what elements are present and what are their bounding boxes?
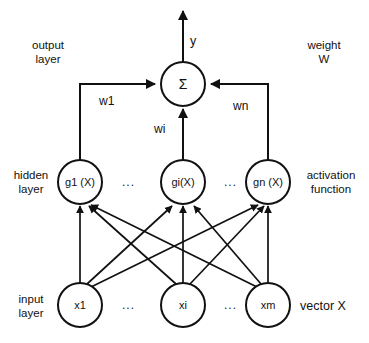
input-node-xm-label: xm — [261, 299, 276, 311]
edge-gn-sigma-wn — [211, 84, 268, 160]
output-signal-y-label: y — [190, 34, 196, 48]
edge-x1-gi — [87, 206, 172, 284]
edge-xi-g1 — [89, 206, 176, 284]
hidden-node-gn-label: gn (X) — [253, 176, 283, 188]
hidden-ellipsis-right: ... — [224, 175, 237, 189]
weight-w-label: weight W — [290, 38, 358, 66]
output-layer-label: output layer — [13, 38, 83, 66]
input-layer-label: input layer — [6, 292, 56, 320]
weight-wn-label: wn — [233, 99, 248, 113]
input-ellipsis-right: ... — [224, 298, 237, 312]
neural-network-diagram: Σ g1 (X) gi(X) gn (X) x1 xi xm output la… — [0, 0, 369, 343]
hidden-node-g1-label: g1 (X) — [65, 176, 95, 188]
input-layer-nodes: x1 xi xm — [58, 283, 290, 327]
vector-x-label: vector X — [300, 299, 346, 313]
summation-node: Σ — [161, 62, 205, 106]
weight-w1-label: w1 — [99, 94, 114, 108]
activation-function-label: activation function — [294, 168, 368, 196]
input-node-xi-label: xi — [179, 299, 187, 311]
summation-node-label: Σ — [179, 76, 188, 92]
weight-wi-label: wi — [154, 122, 165, 136]
edges-input-to-hidden — [80, 205, 268, 287]
hidden-ellipsis-left: ... — [122, 175, 135, 189]
input-ellipsis-left: ... — [122, 298, 135, 312]
hidden-layer-label: hidden layer — [3, 168, 59, 196]
input-node-x1-label: x1 — [74, 299, 86, 311]
hidden-layer-nodes: g1 (X) gi(X) gn (X) — [58, 160, 290, 204]
edge-g1-sigma-w1 — [80, 84, 155, 160]
hidden-node-gi-label: gi(X) — [171, 176, 194, 188]
